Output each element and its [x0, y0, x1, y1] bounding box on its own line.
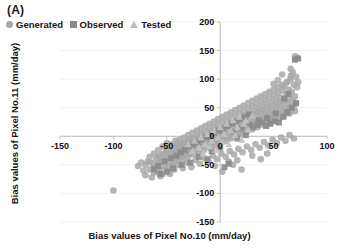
chart-legend: Generated Observed Tested — [6, 19, 171, 30]
data-point-circle — [291, 135, 298, 142]
data-point-square — [164, 169, 170, 175]
y-tick-label: 50 — [180, 103, 214, 113]
y-tick-label: 150 — [180, 46, 214, 56]
x-tick-label: 0 — [218, 141, 223, 151]
data-point-square — [292, 57, 298, 63]
data-point-circle — [287, 66, 294, 73]
x-tick-label: -100 — [104, 141, 122, 151]
panel-label: (A) — [7, 3, 24, 17]
y-tick-label: 200 — [180, 17, 214, 27]
y-axis-title: Bias values of Pixel No.11 (mm/day) — [9, 24, 20, 224]
data-point-square — [170, 165, 176, 171]
y-tick-label: -150 — [180, 217, 214, 227]
y-tick-label: 100 — [180, 74, 214, 84]
data-point-circle — [234, 157, 241, 164]
legend-item-tested: Tested — [130, 19, 171, 30]
legend-label-tested: Tested — [141, 19, 171, 30]
data-point-square — [256, 117, 262, 123]
data-point-square — [286, 91, 292, 97]
scatter-plot-canvas — [0, 0, 339, 248]
data-point-square — [293, 100, 299, 106]
data-point-circle — [256, 144, 263, 151]
data-point-square — [151, 166, 157, 172]
data-point-square — [273, 110, 279, 116]
square-icon — [70, 21, 77, 28]
x-tick-label: -50 — [160, 141, 173, 151]
data-point-circle — [291, 82, 298, 89]
y-tick-label: 0 — [180, 131, 214, 141]
data-point-square — [157, 171, 163, 177]
y-tick-label: -50 — [180, 160, 214, 170]
data-point-circle — [282, 138, 289, 145]
x-tick-label: 100 — [319, 141, 334, 151]
data-point-square — [221, 164, 227, 170]
y-tick-label: -100 — [180, 188, 214, 198]
data-point-square — [264, 115, 270, 121]
data-point-circle — [270, 80, 277, 87]
data-point-circle — [231, 151, 238, 158]
x-tick-label: -150 — [51, 141, 69, 151]
data-point-square — [276, 120, 282, 126]
legend-item-observed: Observed — [70, 19, 123, 30]
legend-label-observed: Observed — [80, 19, 124, 30]
data-point-circle — [146, 154, 153, 161]
data-point-circle — [239, 149, 246, 156]
data-point-circle — [248, 147, 255, 154]
data-point-circle — [110, 187, 117, 194]
x-axis-title: Bias values of Pixel No.10 (mm/day) — [0, 230, 339, 241]
figure-panel: (A) Generated Observed Tested -150-100-5… — [0, 0, 339, 248]
data-point-circle — [142, 172, 149, 179]
data-point-circle — [238, 166, 245, 173]
data-point-circle — [249, 152, 256, 159]
data-point-square — [162, 158, 168, 164]
triangle-icon — [130, 21, 138, 28]
data-point-circle — [287, 72, 294, 79]
data-point-circle — [214, 156, 221, 163]
data-point-square — [168, 155, 174, 161]
data-point-circle — [257, 156, 264, 163]
data-point-circle — [283, 79, 290, 86]
data-point-circle — [138, 159, 145, 166]
x-tick-label: 50 — [269, 141, 279, 151]
legend-label-generated: Generated — [16, 19, 63, 30]
data-point-square — [243, 132, 249, 138]
data-point-circle — [279, 71, 286, 78]
